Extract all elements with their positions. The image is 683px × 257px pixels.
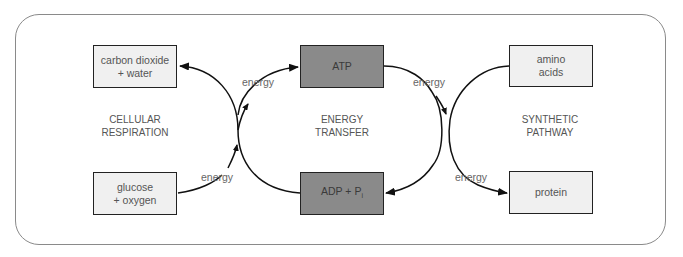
label-line: RESPIRATION <box>101 127 168 138</box>
energy-label-bottom-left: energy <box>201 171 233 183</box>
label-line: TRANSFER <box>315 127 369 138</box>
glucose-up-arrow <box>228 145 237 168</box>
glucose-oxygen-box: glucose+ oxygen <box>93 172 177 215</box>
energy-label-bottom-right: energy <box>455 171 487 183</box>
box-line: + oxygen <box>114 194 157 206</box>
protein-box: protein <box>509 171 593 214</box>
box-line: amino <box>537 53 566 65</box>
energy-to-atp <box>238 67 298 115</box>
cellular-respiration-label: CELLULARRESPIRATION <box>90 113 180 139</box>
label-line: CELLULAR <box>109 114 161 125</box>
label-line: SYNTHETIC <box>522 114 579 125</box>
amino-acids-box: aminoacids <box>509 45 593 87</box>
box-line: + water <box>118 67 153 79</box>
label-line: PATHWAY <box>527 127 574 138</box>
adp-pi-box: ADP + Pi <box>300 172 384 215</box>
energy-label-top-right: energy <box>413 76 445 88</box>
label-line: ENERGY <box>321 114 363 125</box>
box-text: ADP + P <box>321 185 361 197</box>
synthetic-pathway-label: SYNTHETICPATHWAY <box>505 113 595 139</box>
atp-box: ATP <box>300 45 384 88</box>
carbon-dioxide-water-box: carbon dioxide+ water <box>93 45 177 88</box>
respiration-arc <box>180 66 300 193</box>
energy-label-top-left: energy <box>242 76 274 88</box>
box-text: ATP <box>332 60 352 73</box>
box-line: carbon dioxide <box>101 54 169 66</box>
energy-down-arrow <box>436 96 446 114</box>
box-line: acids <box>539 66 564 78</box>
box-line: glucose <box>117 181 153 193</box>
box-text: protein <box>535 186 567 199</box>
energy-transfer-label: ENERGYTRANSFER <box>297 113 387 139</box>
subscript: i <box>361 192 363 199</box>
